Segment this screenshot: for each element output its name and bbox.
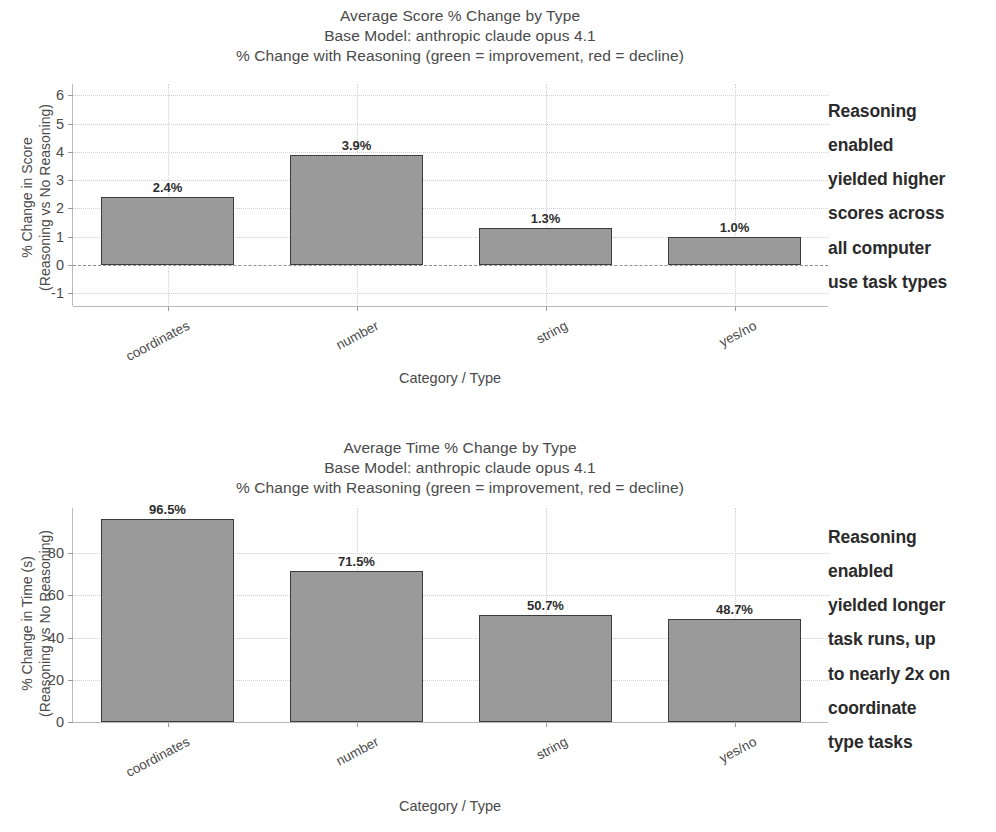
chart-title-score: Average Score % Change by Type xyxy=(110,6,810,26)
chart-subtitle-time: Base Model: anthropic claude opus 4.1 xyxy=(110,458,810,478)
bar-string xyxy=(479,228,611,265)
bar-yes-no xyxy=(668,619,800,722)
y-axis-tick-mark xyxy=(68,293,73,294)
plot-area-time: 02040608096.5%71.5%50.7%48.7% xyxy=(72,508,828,722)
x-axis-label-time: Category / Type xyxy=(72,798,828,814)
y-axis-label-score-line2: (Reasoning vs No Reasoning) xyxy=(36,104,52,291)
gridline-horizontal xyxy=(73,293,828,294)
gridline-horizontal xyxy=(73,265,828,266)
annotation-time-line-1: Reasoning xyxy=(828,520,996,554)
chart-subtitle2-score: % Change with Reasoning (green = improve… xyxy=(110,46,810,66)
bar-yes-no xyxy=(668,237,800,265)
figure-score-change: Average Score % Change by Type Base Mode… xyxy=(0,0,996,416)
annotation-score-line-3: yielded higher xyxy=(828,162,996,196)
annotation-score: Reasoning enabled yielded higher scores … xyxy=(828,94,996,299)
x-axis-line xyxy=(73,306,828,307)
y-axis-tick-mark xyxy=(68,553,73,554)
gridline-horizontal xyxy=(73,124,828,125)
annotation-score-line-5: all computer xyxy=(828,231,996,265)
bar-number xyxy=(290,155,422,265)
y-axis-label-score: % Change in Score (Reasoning vs No Reaso… xyxy=(19,98,54,298)
gridline-horizontal xyxy=(73,152,828,153)
annotation-time-line-7: type tasks xyxy=(828,725,996,759)
chart-subtitle-score: Base Model: anthropic claude opus 4.1 xyxy=(110,26,810,46)
bar-value-label: 96.5% xyxy=(149,502,186,517)
y-axis-tick-mark xyxy=(68,595,73,596)
bar-string xyxy=(479,615,611,722)
bar-coordinates xyxy=(101,197,233,265)
x-axis-tick-label: yes/no xyxy=(654,734,758,799)
y-axis-tick-mark xyxy=(68,265,73,266)
x-axis-tick-label: number xyxy=(276,734,380,799)
y-axis-tick-mark xyxy=(68,152,73,153)
chart-subtitle2-time: % Change with Reasoning (green = improve… xyxy=(110,478,810,498)
figure-time-change: Average Time % Change by Type Base Model… xyxy=(0,416,996,832)
chart-title-time: Average Time % Change by Type xyxy=(110,438,810,458)
annotation-time-line-6: coordinate xyxy=(828,691,996,725)
chart-title-block-score: Average Score % Change by Type Base Mode… xyxy=(110,6,810,66)
bar-value-label: 2.4% xyxy=(153,180,183,195)
x-axis-tick-label: string xyxy=(465,734,569,799)
y-axis-tick-mark xyxy=(68,180,73,181)
gridline-vertical xyxy=(735,84,736,306)
y-axis-tick-mark xyxy=(68,95,73,96)
bar-value-label: 48.7% xyxy=(716,602,753,617)
annotation-score-line-4: scores across xyxy=(828,196,996,230)
bar-number xyxy=(290,571,422,722)
bar-value-label: 50.7% xyxy=(527,598,564,613)
gridline-horizontal xyxy=(73,180,828,181)
y-axis-tick-mark xyxy=(68,638,73,639)
bar-value-label: 1.3% xyxy=(531,211,561,226)
annotation-time-line-4: task runs, up xyxy=(828,622,996,656)
bar-value-label: 1.0% xyxy=(720,220,750,235)
y-axis-label-time-line1: % Change in Time (s) xyxy=(19,556,35,691)
chart-title-block-time: Average Time % Change by Type Base Model… xyxy=(110,438,810,498)
y-axis-tick-mark xyxy=(68,237,73,238)
y-axis-tick-mark xyxy=(68,680,73,681)
annotation-time-line-3: yielded longer xyxy=(828,588,996,622)
plot-area-score: -101234562.4%3.9%1.3%1.0% xyxy=(72,84,828,306)
annotation-time: Reasoning enabled yielded longer task ru… xyxy=(828,520,996,759)
gridline-horizontal xyxy=(73,95,828,96)
annotation-score-line-6: use task types xyxy=(828,265,996,299)
x-axis-tick-label: coordinates xyxy=(87,734,191,799)
bar-value-label: 3.9% xyxy=(342,138,372,153)
annotation-time-line-5: to nearly 2x on xyxy=(828,657,996,691)
x-axis-label-score: Category / Type xyxy=(72,370,828,386)
y-axis-label-score-line1: % Change in Score xyxy=(19,137,35,258)
y-axis-tick-mark xyxy=(68,208,73,209)
bar-value-label: 71.5% xyxy=(338,554,375,569)
annotation-score-line-2: enabled xyxy=(828,128,996,162)
bar-coordinates xyxy=(101,519,233,722)
x-axis-line xyxy=(73,722,828,723)
annotation-score-line-1: Reasoning xyxy=(828,94,996,128)
y-axis-tick-mark xyxy=(68,124,73,125)
annotation-time-line-2: enabled xyxy=(828,554,996,588)
gridline-vertical xyxy=(546,84,547,306)
